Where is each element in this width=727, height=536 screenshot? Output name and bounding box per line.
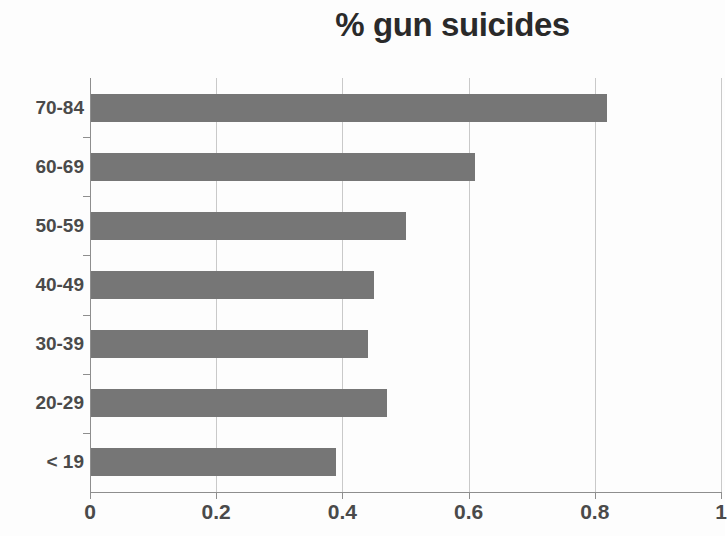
bar-row xyxy=(90,137,721,196)
bar[interactable] xyxy=(90,212,406,240)
bar[interactable] xyxy=(90,271,374,299)
x-tick-label: 0.4 xyxy=(328,500,357,524)
y-tick-label: < 19 xyxy=(6,451,84,473)
bar-row xyxy=(90,374,721,433)
x-tick-mark xyxy=(342,492,343,499)
y-tick-label: 30-39 xyxy=(6,333,84,355)
x-tick-label: 0.2 xyxy=(202,500,231,524)
x-axis-labels: 00.20.40.60.81 xyxy=(90,500,721,536)
x-tick-mark xyxy=(90,492,91,499)
y-tick-label: 70-84 xyxy=(6,97,84,119)
x-tick-label: 0 xyxy=(84,500,96,524)
y-tick-mark xyxy=(83,255,90,256)
x-tick-mark xyxy=(595,492,596,499)
y-tick-mark xyxy=(83,315,90,316)
y-tick-label: 20-29 xyxy=(6,392,84,414)
y-tick-mark xyxy=(83,137,90,138)
gridline xyxy=(721,78,722,492)
bar-row xyxy=(90,315,721,374)
y-tick-mark xyxy=(83,196,90,197)
chart-title: % gun suicides xyxy=(0,6,725,44)
x-tick-mark xyxy=(469,492,470,499)
y-tick-mark xyxy=(83,433,90,434)
y-axis-ticks xyxy=(90,78,91,492)
bar[interactable] xyxy=(90,94,607,122)
x-tick-label: 1 xyxy=(715,500,727,524)
x-tick-label: 0.8 xyxy=(580,500,609,524)
x-axis-line xyxy=(90,492,722,493)
bar[interactable] xyxy=(90,330,368,358)
y-tick-label: 40-49 xyxy=(6,274,84,296)
plot-area xyxy=(90,78,721,492)
bar-row xyxy=(90,78,721,137)
x-tick-mark xyxy=(721,492,722,499)
bar[interactable] xyxy=(90,389,387,417)
bar-row xyxy=(90,255,721,314)
y-tick-mark xyxy=(83,374,90,375)
bar-row xyxy=(90,433,721,492)
bar[interactable] xyxy=(90,448,336,476)
bar-row xyxy=(90,196,721,255)
x-tick-mark xyxy=(216,492,217,499)
y-tick-label: 50-59 xyxy=(6,215,84,237)
y-axis-labels: < 1920-2930-3940-4950-5960-6970-84 xyxy=(0,78,84,492)
y-tick-label: 60-69 xyxy=(6,156,84,178)
x-tick-label: 0.6 xyxy=(454,500,483,524)
bar[interactable] xyxy=(90,153,475,181)
